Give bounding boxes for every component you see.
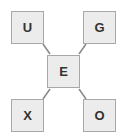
node-bottom-left: X — [11, 99, 44, 132]
node-top-right: G — [83, 11, 116, 44]
node-bottom-right: O — [83, 99, 116, 132]
node-center: E — [47, 55, 80, 88]
node-top-left: U — [11, 11, 44, 44]
